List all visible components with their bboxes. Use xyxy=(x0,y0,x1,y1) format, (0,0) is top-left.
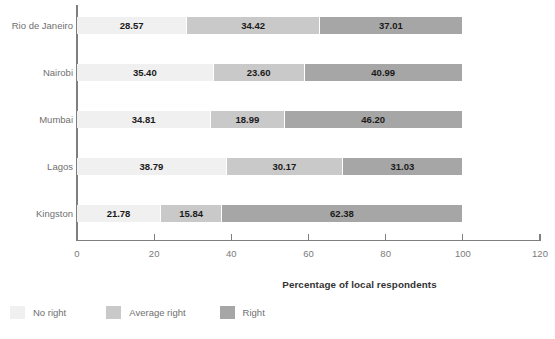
x-tick-100 xyxy=(462,234,463,241)
category-label-mumbai: Mumbai xyxy=(39,114,73,125)
bar-value-label: 34.81 xyxy=(77,111,210,128)
bar-value-label: 23.60 xyxy=(214,64,304,81)
bar-value-label: 31.03 xyxy=(343,158,462,175)
x-tick-60 xyxy=(308,234,309,241)
bar-value-label: 15.84 xyxy=(161,205,221,222)
bar-segment-right: 46.20 xyxy=(285,111,462,128)
bar-value-label: 46.20 xyxy=(285,111,462,128)
bar-value-label: 28.57 xyxy=(77,17,186,34)
x-tick-20 xyxy=(154,234,155,241)
bar-segment-average-right: 18.99 xyxy=(211,111,283,128)
category-label-kingston: Kingston xyxy=(36,208,73,219)
bar-segment-no-right: 21.78 xyxy=(77,205,160,222)
x-tick-label-80: 80 xyxy=(380,248,391,259)
legend-label: No right xyxy=(33,307,66,318)
bar-segment-average-right: 34.42 xyxy=(187,17,319,34)
legend-item-right[interactable]: Right xyxy=(220,306,265,319)
x-tick-label-0: 0 xyxy=(74,248,79,259)
x-tick-label-100: 100 xyxy=(455,248,471,259)
bar-segment-no-right: 34.81 xyxy=(77,111,210,128)
bar-value-label: 18.99 xyxy=(211,111,283,128)
category-label-rio-de-janeiro: Rio de Janeiro xyxy=(12,20,73,31)
x-axis-title-text: Percentage of local respondents xyxy=(282,279,436,290)
category-label-lagos: Lagos xyxy=(47,161,73,172)
bar-value-label: 34.42 xyxy=(187,17,319,34)
legend-swatch-icon xyxy=(10,306,25,319)
legend-item-no-right[interactable]: No right xyxy=(10,306,66,319)
x-tick-label-40: 40 xyxy=(226,248,237,259)
category-label-nairobi: Nairobi xyxy=(43,67,73,78)
bar-value-label: 35.40 xyxy=(77,64,213,81)
bar-segment-average-right: 15.84 xyxy=(161,205,221,222)
bar-segment-average-right: 23.60 xyxy=(214,64,304,81)
bar-value-label: 37.01 xyxy=(320,17,462,34)
bar-value-label: 38.79 xyxy=(77,158,226,175)
bar-segment-right: 31.03 xyxy=(343,158,462,175)
bar-value-label: 40.99 xyxy=(305,64,462,81)
chart-legend: No rightAverage rightRight xyxy=(10,306,291,319)
x-tick-0 xyxy=(76,234,77,241)
x-tick-label-20: 20 xyxy=(149,248,160,259)
x-tick-120 xyxy=(539,234,540,241)
bar-segment-right: 40.99 xyxy=(305,64,462,81)
legend-swatch-icon xyxy=(220,306,235,319)
bar-value-label: 62.38 xyxy=(222,205,462,222)
x-axis-title: Percentage of local respondents xyxy=(0,279,555,290)
bar-segment-no-right: 28.57 xyxy=(77,17,186,34)
x-tick-40 xyxy=(231,234,232,241)
x-tick-80 xyxy=(385,234,386,241)
bar-segment-right: 37.01 xyxy=(320,17,462,34)
bar-value-label: 21.78 xyxy=(77,205,160,222)
bar-segment-average-right: 30.17 xyxy=(227,158,342,175)
bar-segment-right: 62.38 xyxy=(222,205,462,222)
bar-value-label: 30.17 xyxy=(227,158,342,175)
legend-label: Average right xyxy=(129,307,185,318)
legend-label: Right xyxy=(243,307,265,318)
x-tick-label-120: 120 xyxy=(532,248,548,259)
legend-swatch-icon xyxy=(106,306,121,319)
bar-segment-no-right: 35.40 xyxy=(77,64,213,81)
x-tick-label-60: 60 xyxy=(303,248,314,259)
stacked-bar-chart: 020406080100120 Rio de JaneiroNairobiMum… xyxy=(0,0,555,339)
bar-segment-no-right: 38.79 xyxy=(77,158,226,175)
legend-item-average-right[interactable]: Average right xyxy=(106,306,185,319)
